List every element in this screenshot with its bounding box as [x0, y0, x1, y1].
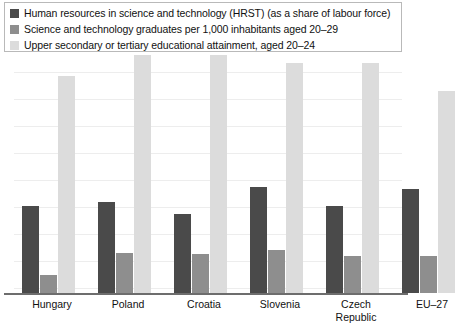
x-axis-labels: HungaryPolandCroatiaSloveniaCzechRepubli… — [14, 298, 402, 336]
bar — [116, 253, 133, 293]
legend-item-hrst: Human resources in science and technolog… — [10, 6, 397, 21]
x-axis-label: EU–27 — [394, 298, 459, 311]
legend-item-graduates: Science and technology graduates per 1,0… — [10, 22, 397, 37]
bar — [438, 91, 455, 293]
bar-group — [402, 55, 458, 293]
bar-group — [250, 55, 306, 293]
x-axis-label: Slovenia — [242, 298, 318, 311]
x-axis-label: Hungary — [14, 298, 90, 311]
bar — [174, 214, 191, 293]
bar — [22, 206, 39, 293]
bar-group — [174, 55, 230, 293]
bar — [286, 63, 303, 293]
x-axis-label-line: Republic — [318, 311, 394, 324]
x-axis-label-line: Poland — [90, 298, 166, 311]
legend-item-attainment: Upper secondary or tertiary educational … — [10, 38, 397, 53]
x-axis-label-line: Croatia — [166, 298, 242, 311]
legend-swatch-medium-icon — [10, 25, 19, 34]
legend-label-hrst: Human resources in science and technolog… — [24, 8, 390, 19]
x-axis-label-line: EU–27 — [394, 298, 459, 311]
bar-group — [98, 55, 154, 293]
x-axis-label-line: Slovenia — [242, 298, 318, 311]
legend-label-graduates: Science and technology graduates per 1,0… — [24, 24, 338, 35]
bar — [210, 55, 227, 293]
bar — [326, 206, 343, 293]
x-axis-label-line: Czech — [318, 298, 394, 311]
legend-swatch-light-icon — [10, 41, 19, 50]
chart-legend: Human resources in science and technolog… — [4, 2, 402, 52]
bar — [402, 189, 419, 293]
x-axis-label: Poland — [90, 298, 166, 311]
bar — [134, 55, 151, 293]
legend-swatch-dark-icon — [10, 9, 19, 18]
bar-group — [326, 55, 382, 293]
bar — [362, 63, 379, 293]
x-axis-line — [4, 293, 408, 295]
bar — [344, 256, 361, 293]
x-axis-label: CzechRepublic — [318, 298, 394, 324]
bar-group — [22, 55, 78, 293]
bar — [192, 254, 209, 293]
bar — [98, 202, 115, 293]
bar — [250, 187, 267, 293]
bar — [58, 76, 75, 293]
x-axis-label: Croatia — [166, 298, 242, 311]
bar — [40, 275, 57, 293]
plot-area — [14, 55, 402, 293]
bar — [268, 250, 285, 293]
x-axis-label-line: Hungary — [14, 298, 90, 311]
bar — [420, 256, 437, 293]
legend-label-attainment: Upper secondary or tertiary educational … — [24, 40, 315, 51]
